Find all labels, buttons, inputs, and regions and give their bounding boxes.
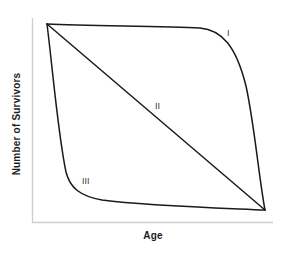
curve-label-type-iii: III: [82, 177, 90, 186]
curve-type-ii: [47, 24, 265, 210]
curve-label-type-ii: II: [155, 102, 160, 111]
curve-label-type-i: I: [227, 29, 230, 38]
y-axis-label: Number of Survivors: [12, 59, 22, 189]
plot-area: [0, 0, 288, 254]
survivorship-curve-figure: Number of Survivors Age I II III: [0, 0, 288, 254]
x-axis-label: Age: [33, 231, 273, 241]
